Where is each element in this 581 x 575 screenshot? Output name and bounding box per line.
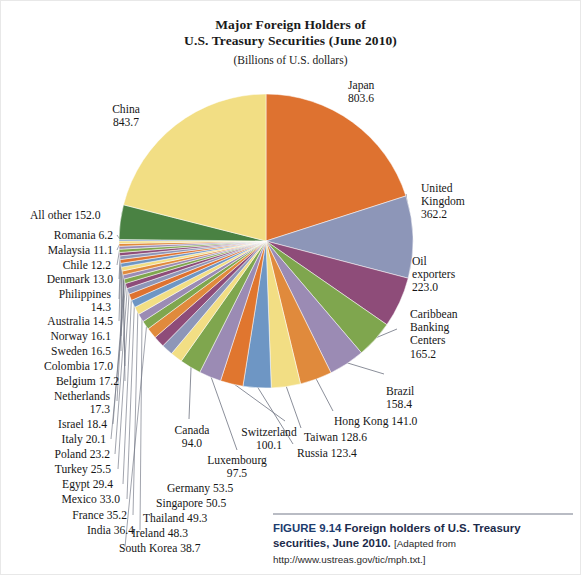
label-philippines: Philippines 14.3 (1, 288, 111, 314)
label-singapore: Singapore 50.5 (156, 497, 226, 510)
label-colombia: Colombia 17.0 (1, 360, 113, 373)
label-india: India 36.4 (1, 524, 134, 537)
label-luxembourg: Luxembourg 97.5 (197, 454, 277, 480)
label-oil-exporters: Oil exporters 223.0 (412, 255, 455, 295)
label-all-other: All other 152.0 (30, 209, 101, 222)
figure-caption: FIGURE 9.14 Foreign holders of U.S. Trea… (273, 513, 573, 567)
leader-line (133, 310, 138, 515)
label-malaysia: Malaysia 11.1 (1, 244, 113, 257)
leader-line (286, 385, 301, 428)
label-caribbean: Caribbean Banking Centers 165.2 (410, 308, 458, 361)
leader-line (127, 303, 134, 499)
leader-line (316, 378, 333, 411)
label-turkey: Turkey 25.5 (1, 463, 111, 476)
label-canada: Canada 94.0 (161, 424, 223, 450)
label-chile: Chile 12.2 (1, 259, 111, 272)
label-netherlands: Netherlands 17.3 (1, 390, 110, 416)
label-sweden: Sweden 16.5 (1, 345, 111, 358)
label-switzerland: Switzerland 100.1 (229, 426, 309, 452)
label-brazil: Brazil 158.4 (386, 385, 414, 411)
leader-line (346, 363, 384, 375)
pie-slices (119, 94, 413, 388)
leader-line (140, 317, 142, 530)
label-australia: Australia 14.5 (1, 315, 113, 328)
label-italy: Italy 20.1 (1, 433, 106, 446)
label-thailand: Thailand 49.3 (143, 512, 207, 525)
label-israel: Israel 18.4 (1, 418, 107, 431)
label-china: China 843.7 (91, 103, 161, 129)
figure-number: FIGURE 9.14 (273, 522, 341, 534)
label-denmark: Denmark 13.0 (1, 273, 113, 286)
label-mexico: Mexico 33.0 (1, 493, 120, 506)
label-norway: Norway 16.1 (1, 330, 111, 343)
figure-frame: Major Foreign Holders of U.S. Treasury S… (0, 0, 581, 575)
label-belgium: Belgium 17.2 (1, 375, 119, 388)
label-germany: Germany 53.5 (167, 482, 233, 495)
label-egypt: Egypt 29.4 (1, 478, 113, 491)
label-hong-kong: Hong Kong 141.0 (334, 415, 417, 428)
label-united-kingdom: United Kingdom 362.2 (421, 182, 465, 222)
leader-line (189, 366, 191, 419)
label-south-korea: South Korea 38.7 (119, 542, 200, 555)
label-romania: Romania 6.2 (1, 229, 113, 242)
label-ireland: Ireland 48.3 (132, 527, 188, 540)
label-japan: Japan 803.6 (348, 79, 374, 105)
label-france: France 35.2 (1, 509, 127, 522)
label-taiwan: Taiwan 128.6 (304, 431, 367, 444)
leader-line (111, 281, 126, 439)
label-poland: Poland 23.2 (1, 448, 110, 461)
